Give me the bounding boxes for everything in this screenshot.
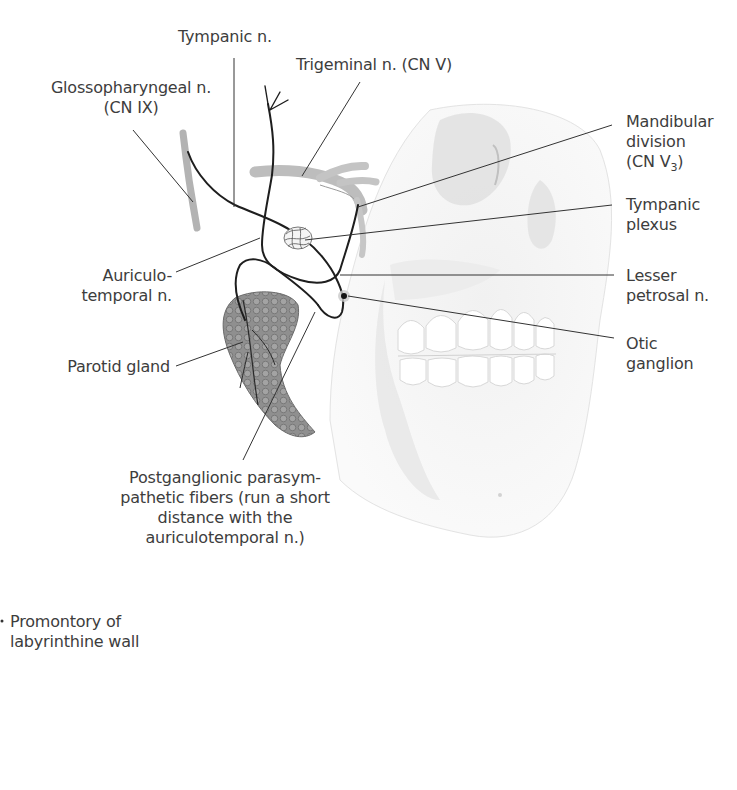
nerve-pathways — [188, 86, 358, 320]
label-text: Auriculo- — [60, 266, 172, 286]
label-glossopharyngeal-n: Glossopharyngeal n. (CN IX) — [26, 78, 236, 118]
lower-teeth — [400, 354, 554, 387]
label-text: Lesser — [626, 266, 709, 286]
label-text: petrosal n. — [626, 286, 709, 306]
label-text: Promontory of — [10, 612, 139, 632]
label-text: labyrinthine wall — [10, 632, 139, 652]
glossopharyngeal-nerve — [183, 133, 197, 228]
auriculotemporal-loop — [262, 104, 358, 283]
label-text: Tympanic — [626, 195, 700, 215]
label-text: Mandibular — [626, 112, 713, 132]
label-tympanic-n: Tympanic n. — [178, 27, 272, 47]
skull — [330, 104, 612, 537]
label-text: Trigeminal n. (CN V) — [296, 55, 452, 75]
label-promontory: Promontory of labyrinthine wall — [10, 612, 139, 652]
tympanic-nerve — [188, 152, 290, 230]
label-text-cn-v3: (CN V3) — [626, 152, 713, 172]
label-auriculotemporal-n: Auriculo- temporal n. — [60, 266, 172, 306]
label-text: distance with the — [100, 508, 350, 528]
label-text: auriculotemporal n.) — [100, 528, 350, 548]
lesser-petrosal-nerve — [305, 240, 343, 318]
label-otic-ganglion: Otic ganglion — [626, 334, 693, 374]
label-text: Postganglionic parasym- — [100, 468, 350, 488]
leader-auriculotemporal-n — [176, 238, 260, 272]
label-text: pathetic fibers (run a short — [100, 488, 350, 508]
label-parotid-gland: Parotid gland — [30, 357, 170, 377]
label-lesser-petrosal-n: Lesser petrosal n. — [626, 266, 709, 306]
leader-promontory-tip — [1, 620, 4, 623]
label-text: division — [626, 132, 713, 152]
label-mandibular-division: Mandibular division (CN V3) — [626, 112, 713, 172]
label-text: temporal n. — [60, 286, 172, 306]
label-trigeminal-n: Trigeminal n. (CN V) — [296, 55, 452, 75]
label-text: ganglion — [626, 354, 693, 374]
anatomy-figure: Tympanic n. Trigeminal n. (CN V) Glossop… — [0, 0, 737, 790]
label-text: plexus — [626, 215, 700, 235]
label-tympanic-plexus: Tympanic plexus — [626, 195, 700, 235]
label-postganglionic-fibers: Postganglionic parasym- pathetic fibers … — [100, 468, 350, 548]
label-text: Otic — [626, 334, 693, 354]
tympanic-plexus — [284, 227, 312, 249]
label-text: Glossopharyngeal n. — [26, 78, 236, 98]
parotid-gland — [223, 292, 315, 437]
label-text: Tympanic n. — [178, 27, 272, 47]
label-text: Parotid gland — [30, 357, 170, 377]
leader-trigeminal-n — [302, 82, 360, 176]
label-text: (CN IX) — [26, 98, 236, 118]
